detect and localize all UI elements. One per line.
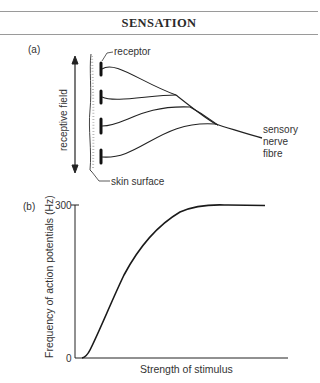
y-tick-0: 0 bbox=[66, 353, 72, 364]
y-tick-300: 300 bbox=[55, 200, 72, 211]
y-axis-label: Frequency of action potentials (Hz) bbox=[43, 195, 55, 358]
chart-axes bbox=[71, 205, 288, 358]
response-curve bbox=[82, 205, 265, 358]
x-axis-label: Strength of stimulus bbox=[140, 364, 233, 375]
